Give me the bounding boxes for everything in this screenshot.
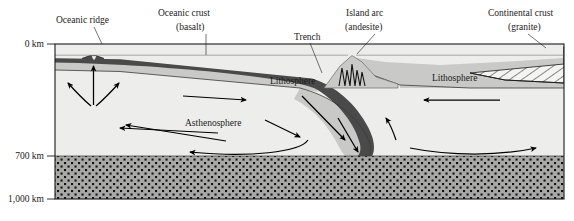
layer-label-asthenosphere: Asthenosphere (185, 118, 241, 128)
callout-sublabel-oceanic-crust: (basalt) (176, 22, 205, 33)
layer-label-lithosphere-left: Lithosphere (270, 76, 315, 86)
plate-tectonics-figure: 0 km 700 km 1,000 km Oceanic ridge Ocean… (0, 0, 574, 221)
callout-sublabel-continental-crust: (granite) (508, 22, 541, 33)
callout-sublabel-island-arc: (andesite) (345, 22, 382, 33)
axis-label-0km: 0 km (25, 39, 45, 49)
layer-label-lithosphere-right: Lithosphere (432, 73, 477, 83)
lower-mantle-layer (55, 156, 564, 199)
leader-oceanic-ridge (94, 27, 102, 44)
section-body (55, 44, 564, 199)
axis-label-700km: 700 km (15, 151, 44, 161)
callout-label-continental-crust: Continental crust (488, 8, 554, 18)
depth-axis: 0 km 700 km 1,000 km (8, 39, 55, 204)
diagram-canvas: 0 km 700 km 1,000 km Oceanic ridge Ocean… (0, 0, 574, 221)
axis-label-1000km: 1,000 km (8, 194, 45, 204)
callout-label-oceanic-crust: Oceanic crust (158, 8, 210, 18)
callout-label-oceanic-ridge: Oceanic ridge (56, 15, 109, 25)
callout-label-island-arc: Island arc (346, 8, 383, 18)
lithosphere-right-base-pad (400, 82, 564, 88)
callout-label-trench: Trench (294, 32, 321, 42)
